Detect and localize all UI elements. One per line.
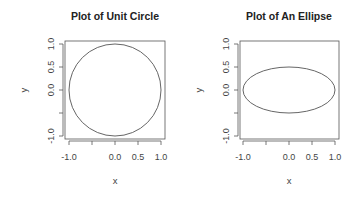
x-tick-label: 0.0	[283, 152, 296, 162]
x-tick-label: 0.5	[132, 152, 145, 162]
y-tick-label: -1.0	[46, 128, 56, 144]
x-tick-label: -1.0	[235, 152, 251, 162]
x-tick-label: 0.5	[306, 152, 319, 162]
plot-frame	[240, 41, 339, 139]
x-tick-label: 0.0	[109, 152, 122, 162]
y-tick-label: 0.5	[46, 61, 56, 74]
y-tick-label: 1.0	[46, 38, 56, 51]
x-axis-label: x	[113, 175, 118, 186]
plot-title: Plot of Unit Circle	[71, 10, 159, 22]
y-axis-label: y	[193, 87, 204, 92]
y-tick-label: 0.0	[46, 84, 56, 97]
y-tick-label: -1.0	[221, 128, 231, 144]
plot-unit-circle: Plot of Unit Circle -1.0 0.0 0.5 1.0 x -…	[18, 10, 167, 186]
plot-ellipse: Plot of An Ellipse -1.0 0.0 0.5 1.0 x -1…	[193, 10, 341, 186]
figure: Plot of Unit Circle -1.0 0.0 0.5 1.0 x -…	[0, 0, 357, 197]
ellipse-curve	[243, 67, 335, 113]
x-axis-label: x	[287, 175, 292, 186]
y-axis-label: y	[18, 87, 29, 92]
y-tick-label: 0.0	[221, 84, 231, 97]
plot-frame	[65, 41, 165, 139]
plot-title: Plot of An Ellipse	[246, 10, 332, 22]
y-tick-label: 0.5	[221, 61, 231, 74]
unit-circle-curve	[69, 44, 161, 136]
x-tick-label: 1.0	[329, 152, 342, 162]
y-tick-label: 1.0	[221, 38, 231, 51]
x-tick-label: -1.0	[61, 152, 77, 162]
x-tick-label: 1.0	[155, 152, 168, 162]
